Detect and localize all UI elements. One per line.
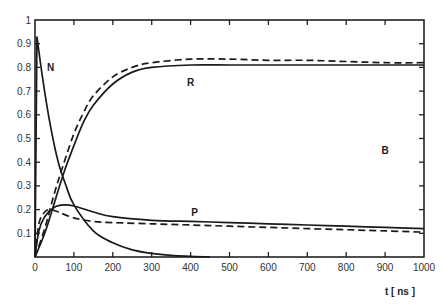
x-tick-label: 400 [182,262,199,273]
curve-labels: NRPB [47,62,389,218]
x-tick-label: 800 [338,262,355,273]
x-axis-title: t [ ns ] [385,286,415,297]
curve-n [35,37,210,257]
y-tick-label: 0.4 [17,157,31,168]
x-tick-label: 0 [32,262,38,273]
chart: 010020030040050060070080090010000.10.20.… [0,0,444,306]
x-tick-label: 500 [221,262,238,273]
label-n: N [47,62,54,73]
y-tick-label: 1 [25,15,31,26]
y-tick-label: 0.2 [17,204,31,215]
data-curves [35,37,424,257]
x-tick-label: 300 [143,262,160,273]
y-tick-label: 0.9 [17,38,31,49]
x-tick-label: 600 [260,262,277,273]
label-r: R [187,77,195,88]
x-tick-label: 200 [104,262,121,273]
y-tick-label: 0.5 [17,133,31,144]
y-tick-label: 0.3 [17,180,31,191]
y-tick-label: 0.1 [17,228,31,239]
label-b: B [381,145,388,156]
label-p: P [191,207,198,218]
y-tick-label: 0.6 [17,109,31,120]
x-tick-label: 100 [66,262,83,273]
curve-r-solid [35,65,424,257]
axis-ticks: 010020030040050060070080090010000.10.20.… [17,15,435,274]
axis-frame [35,20,424,257]
x-tick-label: 900 [377,262,394,273]
x-tick-label: 700 [299,262,316,273]
y-tick-label: 0.8 [17,62,31,73]
plot-frame [35,20,424,257]
y-tick-label: 0.7 [17,86,31,97]
x-tick-label: 1000 [413,262,436,273]
curve-p-dashed [35,210,424,257]
